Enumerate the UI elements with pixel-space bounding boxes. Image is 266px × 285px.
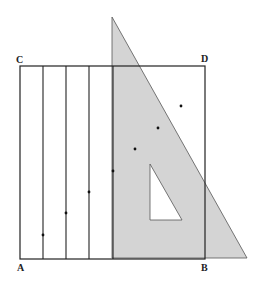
point (112, 170, 115, 173)
point (180, 105, 183, 108)
point (134, 148, 137, 151)
label-a: A (17, 262, 25, 273)
point (157, 127, 160, 130)
point (88, 191, 91, 194)
geometry-diagram: C D A B (0, 0, 266, 285)
label-d: D (201, 53, 208, 64)
label-b: B (201, 262, 208, 273)
point (65, 212, 68, 215)
set-square (112, 17, 247, 258)
point (42, 234, 45, 237)
label-c: C (16, 54, 23, 65)
